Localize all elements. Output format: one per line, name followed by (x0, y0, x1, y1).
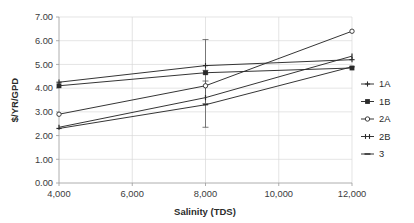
y-tick-label: 2.00 (35, 131, 53, 141)
data-point-1B (203, 70, 208, 75)
chart-container: 0.001.002.003.004.005.006.007.00 4,0006,… (0, 0, 414, 223)
legend-label-1B: 1B (379, 97, 390, 107)
legend-marker-1A (365, 81, 370, 86)
legend-label-3: 3 (379, 149, 384, 159)
legend[interactable]: 1A1B2A2B3 (361, 79, 391, 159)
legend-label-1A: 1A (379, 79, 391, 89)
legend-item-3[interactable]: 3 (361, 149, 384, 159)
x-axis-title: Salinity (TDS) (174, 206, 236, 217)
x-tick-label: 10,000 (265, 189, 293, 199)
y-tick-label: 6.00 (35, 36, 53, 46)
y-tick-label: 1.00 (35, 155, 53, 165)
x-tick-label: 12,000 (338, 189, 366, 199)
legend-item-2A[interactable]: 2A (361, 114, 391, 124)
legend-marker-2A (365, 117, 369, 121)
data-point-2A (57, 112, 61, 116)
legend-item-1A[interactable]: 1A (361, 79, 391, 89)
data-point-2A (203, 84, 207, 88)
y-axis-tick-labels: 0.001.002.003.004.005.006.007.00 (35, 12, 53, 188)
x-tick-label: 6,000 (121, 189, 144, 199)
x-tick-label: 4,000 (47, 189, 70, 199)
y-axis-title: $/YR/GPD (9, 78, 20, 122)
y-tick-label: 3.00 (35, 107, 53, 117)
x-axis-tick-labels: 4,0006,0008,00010,00012,000 (47, 189, 366, 199)
legend-label-2B: 2B (379, 132, 390, 142)
data-point-2A (350, 29, 354, 33)
y-tick-label: 0.00 (35, 178, 53, 188)
data-point-1A (203, 63, 208, 68)
legend-item-1B[interactable]: 1B (361, 97, 390, 107)
data-point-1B (57, 83, 62, 88)
legend-marker-1B (365, 99, 370, 104)
tick-marks (56, 17, 352, 186)
y-tick-label: 7.00 (35, 12, 53, 22)
legend-item-2B[interactable]: 2B (361, 132, 390, 142)
y-tick-label: 4.00 (35, 83, 53, 93)
x-tick-label: 8,000 (194, 189, 217, 199)
y-tick-label: 5.00 (35, 60, 53, 70)
legend-label-2A: 2A (379, 114, 391, 124)
line-chart: 0.001.002.003.004.005.006.007.00 4,0006,… (0, 0, 414, 223)
